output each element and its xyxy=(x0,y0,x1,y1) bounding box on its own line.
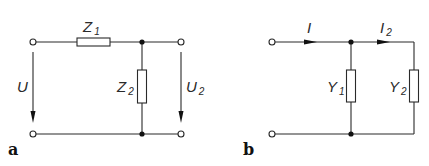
label-i2: I2 xyxy=(380,19,392,38)
terminal-input-bottom xyxy=(269,131,275,137)
label-i: I xyxy=(307,19,311,36)
label-u2: U2 xyxy=(186,78,205,97)
arrowhead-right-icon xyxy=(377,40,390,45)
junction-node-top xyxy=(348,39,353,44)
resistor-y2 xyxy=(410,70,419,102)
panel-label-a: a xyxy=(8,140,18,159)
circuit-diagrams: Z1 Z2 U U2 a I I2 Y1 Y2 b xyxy=(0,0,429,166)
terminal-input-top xyxy=(30,39,36,45)
terminal-input-top xyxy=(269,39,275,45)
label-y1: Y1 xyxy=(327,78,345,97)
junction-node-bottom xyxy=(348,131,353,136)
label-y2: Y2 xyxy=(389,78,407,97)
label-z2: Z2 xyxy=(116,78,134,97)
label-z1: Z1 xyxy=(82,18,100,37)
arrowhead-down-icon xyxy=(179,111,184,123)
panel-b: I I2 Y1 Y2 b xyxy=(243,19,419,159)
arrowhead-right-icon xyxy=(304,40,317,45)
terminal-output-top xyxy=(178,39,184,45)
resistor-y1 xyxy=(347,70,356,102)
junction-node-bottom xyxy=(139,131,144,136)
panel-label-b: b xyxy=(243,140,254,159)
panel-a: Z1 Z2 U U2 a xyxy=(8,18,205,159)
terminal-input-bottom xyxy=(30,131,36,137)
resistor-z1 xyxy=(77,38,110,46)
junction-node-top xyxy=(139,39,144,44)
resistor-z2 xyxy=(138,70,147,103)
arrowhead-down-icon xyxy=(31,111,36,123)
label-u: U xyxy=(17,78,28,95)
terminal-output-bottom xyxy=(178,131,184,137)
